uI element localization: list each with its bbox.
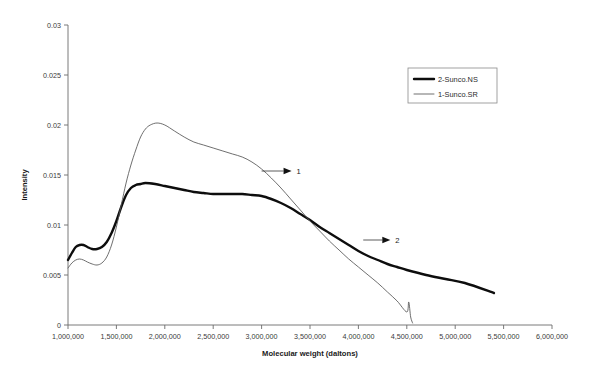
y-axis-title: Intensity xyxy=(20,169,29,201)
series-line-2 xyxy=(68,183,494,293)
x-tick-label: 6,000,000 xyxy=(536,332,568,341)
annotation-label-1: 1 xyxy=(297,167,301,176)
annotation-label-2: 2 xyxy=(395,236,399,245)
annotation-arrow-head xyxy=(284,168,292,174)
x-tick-label: 1,000,000 xyxy=(52,332,84,341)
legend-item-label[interactable]: 1-Sunco.SR xyxy=(438,90,478,99)
y-tick-label: 0.005 xyxy=(43,271,61,280)
y-tick-label: 0.03 xyxy=(47,21,61,30)
x-axis-title: Molecular weight (daltons) xyxy=(262,349,358,358)
series-line-1 xyxy=(68,123,413,323)
series-group xyxy=(68,123,494,323)
y-tick-label: 0.02 xyxy=(47,121,61,130)
x-tick-label: 3,500,000 xyxy=(294,332,326,341)
y-tick-label: 0 xyxy=(57,321,61,330)
chart-legend[interactable]: 2-Sunco.NS1-Sunco.SR xyxy=(408,68,497,103)
x-tick-label: 2,000,000 xyxy=(149,332,181,341)
annotation-arrow-head xyxy=(382,237,390,243)
x-tick-label: 5,000,000 xyxy=(439,332,471,341)
x-tick-label: 4,500,000 xyxy=(391,332,423,341)
y-tick-label: 0.015 xyxy=(43,171,61,180)
legend-item-label[interactable]: 2-Sunco.NS xyxy=(438,75,478,84)
x-tick-label: 3,000,000 xyxy=(246,332,278,341)
x-tick-label: 5,500,000 xyxy=(488,332,520,341)
x-axis-ticks: 1,000,0001,500,0002,000,0002,500,0003,00… xyxy=(52,325,568,341)
x-tick-label: 1,500,000 xyxy=(100,332,132,341)
chart-container: 00.0050.010.0150.020.0250.03 1,000,0001,… xyxy=(0,0,594,378)
x-tick-label: 2,500,000 xyxy=(197,332,229,341)
y-axis-ticks: 00.0050.010.0150.020.0250.03 xyxy=(43,21,68,330)
x-tick-label: 4,000,000 xyxy=(342,332,374,341)
line-chart: 00.0050.010.0150.020.0250.03 1,000,0001,… xyxy=(0,0,594,378)
y-tick-label: 0.01 xyxy=(47,221,61,230)
y-tick-label: 0.025 xyxy=(43,71,61,80)
